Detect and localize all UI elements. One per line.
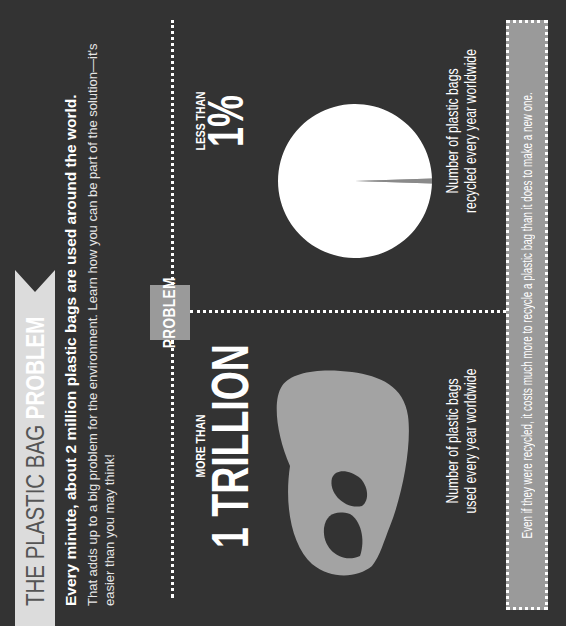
section-label-box: PROBLEM	[150, 285, 190, 340]
infographic-rotated-frame: THE PLASTIC BAG PROBLEM Every minute, ab…	[0, 0, 566, 626]
used-caption-line2: used every year worldwide	[462, 351, 479, 531]
intro-body: That adds up to a big problem for the en…	[84, 6, 118, 606]
plastic-bag-icon	[262, 356, 412, 586]
recycling-pie-chart	[275, 101, 435, 261]
title-prefix: THE PLASTIC BAG	[21, 419, 49, 606]
used-value: 1 TRILLION	[204, 338, 256, 554]
page-title: THE PLASTIC BAG PROBLEM	[15, 317, 55, 606]
intro-headline: Every minute, about 2 million plastic ba…	[62, 94, 80, 606]
divider-center	[190, 310, 506, 313]
used-caption-line1: Number of plastic bags	[444, 351, 461, 531]
recycled-value: 1%	[200, 85, 252, 157]
divider-right	[171, 20, 174, 285]
footer-note-box: Even if they were recycled, it costs muc…	[506, 20, 548, 610]
divider-left	[171, 340, 174, 598]
footer-note: Even if they were recycled, it costs muc…	[519, 92, 535, 538]
recycled-caption-line2: recycled every year worldwide	[462, 48, 479, 214]
section-label: PROBLEM	[160, 277, 180, 348]
recycled-caption-line1: Number of plastic bags	[444, 48, 461, 214]
title-accent: PROBLEM	[21, 317, 49, 420]
